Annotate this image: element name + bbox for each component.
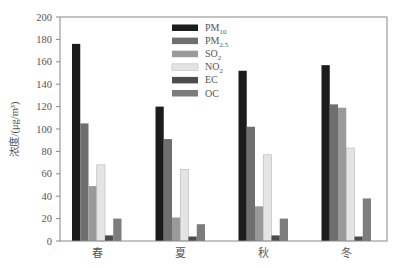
bar-PM2.5: [247, 127, 255, 241]
legend-swatch: [172, 25, 198, 32]
legend-item: NO2: [172, 61, 223, 75]
bar-chart: 020406080100120140160180200 春夏秋冬 PM10PM2…: [0, 0, 401, 269]
y-tick-label: 200: [36, 12, 52, 23]
bar-NO2: [263, 155, 271, 241]
bar-EC: [189, 237, 197, 241]
bar-PM10: [72, 44, 80, 241]
legend-swatch: [172, 77, 198, 84]
x-tick-label: 夏: [175, 247, 186, 259]
bar-PM10: [239, 71, 247, 241]
bar-OC: [363, 198, 371, 241]
legend-item: OC: [172, 88, 219, 99]
legend-item: PM2.5: [172, 35, 229, 49]
bar-OC: [280, 219, 288, 241]
x-axis: 春夏秋冬: [92, 246, 353, 259]
bar-PM10: [156, 107, 164, 241]
legend-label: SO2: [205, 48, 222, 62]
y-tick-label: 120: [36, 101, 52, 112]
bar-EC: [272, 235, 280, 241]
bar-SO2: [172, 217, 180, 241]
y-tick-label: 20: [42, 213, 53, 224]
x-tick-label: 春: [92, 247, 103, 259]
bar-EC: [355, 237, 363, 241]
y-tick-label: 140: [36, 79, 52, 90]
bar-SO2: [255, 206, 263, 241]
legend-item: EC: [172, 74, 218, 85]
legend-label: NO2: [205, 61, 223, 75]
bar-PM2.5: [330, 104, 338, 241]
legend-item: SO2: [172, 48, 222, 62]
y-tick-label: 160: [36, 56, 52, 67]
legend-label: PM2.5: [205, 35, 229, 49]
bar-OC: [197, 224, 205, 241]
y-tick-label: 0: [47, 236, 52, 247]
legend: PM10PM2.5SO2NO2ECOC: [172, 22, 229, 99]
bar-PM10: [322, 65, 330, 241]
y-axis-label: 浓度/(μg/m³): [8, 101, 21, 157]
bar-group-0: [72, 44, 122, 241]
y-tick-label: 180: [36, 34, 52, 45]
legend-swatch: [172, 38, 198, 45]
y-tick-label: 60: [42, 168, 53, 179]
legend-swatch: [172, 51, 198, 58]
y-axis: 020406080100120140160180200: [36, 12, 60, 247]
y-tick-label: 40: [42, 191, 53, 202]
y-tick-label: 80: [42, 146, 53, 157]
x-tick-label: 秋: [258, 246, 269, 259]
bar-SO2: [89, 186, 97, 241]
bar-NO2: [346, 148, 354, 241]
bar-group-3: [322, 65, 372, 241]
bar-group-1: [156, 107, 206, 241]
legend-item: PM10: [172, 22, 227, 36]
legend-label: EC: [205, 74, 218, 85]
x-tick-label: 冬: [341, 246, 352, 259]
bar-PM2.5: [80, 123, 88, 241]
bar-SO2: [338, 108, 346, 241]
bar-group-2: [239, 71, 289, 241]
bar-EC: [105, 235, 113, 241]
legend-swatch: [172, 90, 198, 97]
bar-OC: [113, 219, 121, 241]
bar-NO2: [180, 169, 188, 241]
legend-label: PM10: [205, 22, 227, 36]
legend-swatch: [172, 64, 198, 71]
bar-NO2: [97, 165, 105, 241]
y-tick-label: 100: [36, 124, 52, 135]
legend-label: OC: [205, 88, 219, 99]
bar-PM2.5: [164, 139, 172, 241]
